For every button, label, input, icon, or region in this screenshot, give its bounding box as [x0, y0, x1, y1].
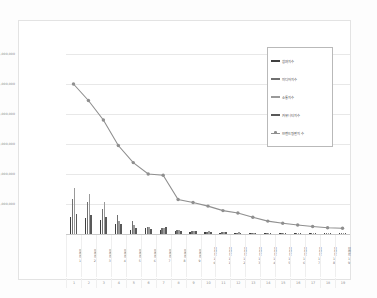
x-axis-rank-label: 5 — [126, 278, 141, 288]
legend-color-swatch — [271, 96, 280, 99]
x-axis-rank-labels: 12345678910111213141516171819 — [66, 278, 350, 288]
line-marker — [191, 201, 194, 204]
x-axis-category-labels: 브랜드1브랜드2브랜드3브랜드4브랜드5브랜드6브랜드7브랜드8브랜드9브랜드1… — [66, 235, 350, 277]
line-marker — [117, 144, 120, 147]
legend-label: 소통지수 — [282, 95, 294, 100]
x-axis-rank-label: 17 — [305, 278, 320, 288]
line-marker — [161, 174, 164, 177]
legend-label: 미디어지수 — [282, 77, 298, 82]
legend-item[interactable]: 참여지수 — [271, 52, 329, 70]
x-axis-category-label: 브랜드19 — [335, 235, 350, 277]
line-marker — [221, 209, 224, 212]
x-axis-rank-label: 3 — [96, 278, 111, 288]
x-axis-category-label: 브랜드4 — [111, 235, 126, 277]
chart-frame: 1,000,0002,000,0003,000,0004,000,0005,00… — [18, 20, 351, 280]
x-axis-category-label: 브랜드2 — [81, 235, 96, 277]
y-axis-tick-label: 2,000,000 — [0, 172, 15, 176]
x-axis-category-label: 브랜드11 — [215, 235, 230, 277]
x-axis-rank-label: 12 — [230, 278, 245, 288]
y-axis-tick-label: 1,000,000 — [0, 202, 15, 206]
line-marker — [102, 118, 105, 121]
x-axis-rank-label: 8 — [171, 278, 186, 288]
x-axis-rank-label: 19 — [335, 278, 350, 288]
x-axis-category-label: 브랜드1 — [66, 235, 81, 277]
x-axis-rank-label: 1 — [66, 278, 81, 288]
legend-item[interactable]: 미디어지수 — [271, 70, 329, 88]
x-axis-rank-label: 11 — [215, 278, 230, 288]
x-axis-category-label: 브랜드3 — [96, 235, 111, 277]
x-axis-rank-label: 14 — [260, 278, 275, 288]
y-axis-tick-label: 6,000,000 — [0, 52, 15, 56]
legend-color-swatch — [271, 114, 280, 117]
x-axis-rank-label: 2 — [81, 278, 96, 288]
line-marker — [132, 161, 135, 164]
x-axis-category-label: 브랜드14 — [260, 235, 275, 277]
line-marker — [296, 223, 299, 226]
legend-label: 브랜드평판지수 — [282, 131, 304, 136]
x-axis-category-label: 브랜드13 — [245, 235, 260, 277]
line-marker — [147, 172, 150, 175]
x-axis-category-label: 브랜드9 — [186, 235, 201, 277]
legend-label: 참여지수 — [282, 59, 294, 64]
x-axis-category-label: 브랜드15 — [275, 235, 290, 277]
x-axis-category-label: 브랜드8 — [171, 235, 186, 277]
x-axis-rank-label: 15 — [275, 278, 290, 288]
y-axis-tick-label: 3,000,000 — [0, 142, 15, 146]
line-marker — [281, 222, 284, 225]
line-marker — [266, 219, 269, 222]
legend-item[interactable]: 커뮤니티지수 — [271, 106, 329, 124]
x-axis-rank-label: 10 — [201, 278, 216, 288]
x-axis-rank-label: 16 — [290, 278, 305, 288]
x-axis-category-label: 브랜드6 — [141, 235, 156, 277]
legend-item[interactable]: 브랜드평판지수 — [271, 124, 329, 142]
line-marker — [311, 225, 314, 228]
legend-color-swatch — [271, 78, 280, 81]
legend-color-swatch — [271, 60, 280, 63]
x-axis-category-label: 브랜드7 — [156, 235, 171, 277]
line-marker — [72, 82, 75, 85]
line-marker — [87, 99, 90, 102]
x-axis-rank-label: 9 — [186, 278, 201, 288]
x-axis-rank-label: 7 — [156, 278, 171, 288]
x-axis-category-label: 브랜드17 — [305, 235, 320, 277]
line-marker — [236, 211, 239, 214]
legend-label: 커뮤니티지수 — [282, 113, 301, 118]
x-axis-rank-label: 13 — [245, 278, 260, 288]
x-axis-category-label: 브랜드16 — [290, 235, 305, 277]
line-marker — [326, 226, 329, 229]
chart-legend: 참여지수미디어지수소통지수커뮤니티지수브랜드평판지수 — [267, 47, 333, 147]
x-axis-rank-label: 4 — [111, 278, 126, 288]
line-marker — [251, 216, 254, 219]
x-axis-rank-label: 18 — [320, 278, 335, 288]
x-axis-category-label: 브랜드10 — [201, 235, 216, 277]
x-axis-category-label: 브랜드5 — [126, 235, 141, 277]
y-axis-tick-label: 5,000,000 — [0, 82, 15, 86]
line-marker — [341, 227, 344, 230]
x-axis-category-label: 브랜드18 — [320, 235, 335, 277]
line-marker — [176, 198, 179, 201]
screenshot-root: 1,000,0002,000,0003,000,0004,000,0005,00… — [0, 0, 377, 298]
line-marker — [206, 204, 209, 207]
x-axis-rank-label: 6 — [141, 278, 156, 288]
legend-item[interactable]: 소통지수 — [271, 88, 329, 106]
x-axis-category-label: 브랜드12 — [230, 235, 245, 277]
y-axis-tick-label: 4,000,000 — [0, 112, 15, 116]
legend-line-swatch — [271, 132, 280, 135]
